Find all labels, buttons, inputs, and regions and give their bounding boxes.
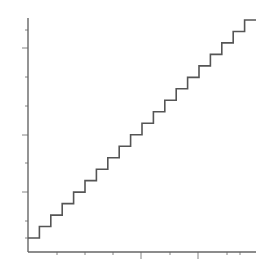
step-chart <box>0 0 272 271</box>
step-series-line <box>28 20 256 238</box>
